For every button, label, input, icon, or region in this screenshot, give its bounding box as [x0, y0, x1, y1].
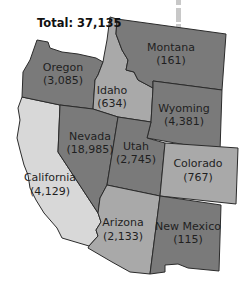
state-value-label: (2,133) — [103, 230, 143, 243]
dash-mark — [176, 8, 181, 22]
map-title: Total: 37,135 — [37, 16, 121, 30]
state-name-label: California — [24, 171, 76, 184]
state-name-label: Montana — [147, 41, 195, 54]
state-value-label: (115) — [173, 233, 203, 246]
state-name-label: New Mexico — [155, 220, 221, 233]
state-value-label: (161) — [156, 54, 186, 67]
dash-mark — [176, 0, 181, 5]
western-states-map: Total: 37,135 Oregon (3,085) Idaho (634)… — [0, 0, 247, 286]
state-name-label: Idaho — [97, 84, 128, 97]
state-name-label: Oregon — [43, 61, 83, 74]
state-name-label: Wyoming — [158, 102, 210, 115]
state-value-label: (4,129) — [30, 185, 70, 198]
state-value-label: (3,085) — [43, 74, 83, 87]
state-name-label: Utah — [123, 140, 149, 153]
state-name-label: Colorado — [173, 157, 222, 170]
state-name-label: Nevada — [69, 130, 111, 143]
state-name-label: Arizona — [102, 216, 143, 229]
state-value-label: (767) — [183, 171, 213, 184]
state-value-label: (4,381) — [164, 115, 204, 128]
state-value-label: (634) — [97, 97, 127, 110]
state-value-label: (18,985) — [66, 143, 113, 156]
state-value-label: (2,745) — [116, 153, 156, 166]
